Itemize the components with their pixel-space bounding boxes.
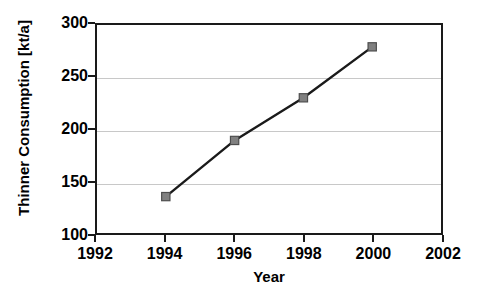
y-tick-mark-200 <box>88 128 95 130</box>
x-tick-label-1996: 1996 <box>204 245 264 263</box>
x-tick-mark-1998 <box>303 235 305 242</box>
plot-area <box>95 23 443 235</box>
x-tick-label-1992: 1992 <box>65 245 125 263</box>
y-tick-label-300: 300 <box>36 14 88 32</box>
x-axis-tick-labels: 199219941996199820002002 <box>95 245 443 267</box>
x-tick-mark-1992 <box>94 235 96 242</box>
data-point-1998 <box>299 94 307 102</box>
y-tick-label-100: 100 <box>36 226 88 244</box>
chart-figure: Thinner Consumption [kt/a] 1001502002503… <box>0 0 486 300</box>
y-tick-label-150: 150 <box>36 173 88 191</box>
y-tick-mark-300 <box>88 22 95 24</box>
x-axis-title: Year <box>95 268 443 285</box>
y-axis-title: Thinner Consumption [kt/a] <box>12 0 34 243</box>
x-tick-label-1994: 1994 <box>135 245 195 263</box>
x-tick-label-2000: 2000 <box>343 245 403 263</box>
y-tick-mark-150 <box>88 181 95 183</box>
y-tick-mark-250 <box>88 75 95 77</box>
x-tick-mark-1994 <box>164 235 166 242</box>
y-tick-label-200: 200 <box>36 120 88 138</box>
y-tick-label-250: 250 <box>36 67 88 85</box>
x-axis-tick-marks <box>95 235 443 243</box>
x-tick-mark-2000 <box>372 235 374 242</box>
data-point-1996 <box>230 136 238 144</box>
x-tick-mark-1996 <box>233 235 235 242</box>
x-tick-label-2002: 2002 <box>413 245 473 263</box>
x-tick-mark-2002 <box>442 235 444 242</box>
data-point-2000 <box>368 43 376 51</box>
series-line-0 <box>166 47 372 197</box>
data-point-1994 <box>162 192 170 200</box>
data-series-layer <box>97 25 441 233</box>
x-tick-label-1998: 1998 <box>274 245 334 263</box>
